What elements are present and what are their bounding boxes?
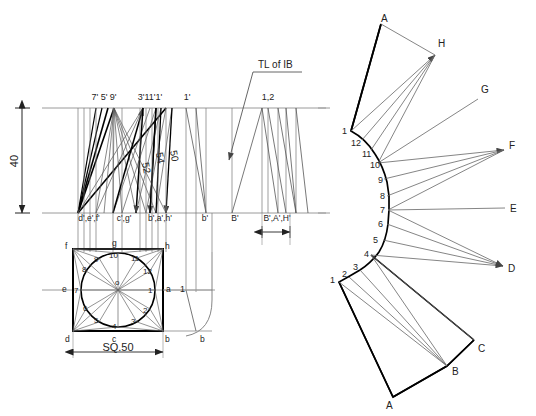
label-e: e (62, 284, 67, 294)
label-b-outer: b (200, 334, 205, 344)
rays-to-H (351, 24, 435, 163)
dev-label-A-top: A (381, 13, 388, 24)
height-dimension-label: 40 (8, 155, 20, 167)
development-reference-ticks (318, 108, 326, 213)
dev-label-H: H (438, 38, 445, 49)
tl-of-ib-label: TL of IB (258, 59, 293, 70)
dev-number-6: 6 (378, 219, 383, 229)
label-h: h (165, 241, 170, 251)
dev-number-1-top: 1 (342, 126, 347, 136)
division-6: 6 (83, 304, 88, 313)
dev-number-9: 9 (378, 175, 383, 185)
front-view-outline (78, 108, 308, 292)
dev-number-1-bot: 1 (330, 275, 335, 285)
engineering-drawing-canvas: 40 (0, 0, 536, 416)
division-1: 1 (148, 286, 153, 295)
tl-of-ib-annotation: TL of IB (229, 59, 302, 160)
rays-to-F (378, 150, 504, 210)
dev-number-3: 3 (353, 262, 358, 272)
ray-to-E (388, 208, 505, 210)
bottom-label-Bprime: B' (231, 213, 239, 223)
label-o-center: o (115, 278, 120, 287)
bottom-label-def: d',e',f' (78, 213, 100, 223)
ray-to-G (378, 99, 478, 163)
front-view-bottom-labels: d',e',f' c',g' b',a',h' b' B' B',A',H' (78, 213, 291, 223)
division-3: 3 (131, 317, 136, 326)
top-view-group: SQ.50 f g h e a d c b b 1 o 1 2 3 (42, 213, 215, 358)
dev-number-2: 2 (342, 269, 347, 279)
dev-number-4: 4 (364, 249, 369, 259)
division-4: 4 (112, 322, 117, 331)
dev-label-B: B (452, 366, 459, 377)
rays-to-D (371, 210, 503, 266)
top-label-1-2: 1,2 (262, 92, 275, 102)
dev-number-12: 12 (351, 138, 361, 148)
top-label-1prime: 1' (184, 92, 191, 102)
top-view-right-projection (163, 213, 212, 336)
slant-label-50: 50 (168, 149, 181, 162)
slant-label-54: 54 (154, 151, 167, 164)
division-5: 5 (94, 316, 99, 325)
dev-label-C: C (478, 343, 485, 354)
square-dimension-label: SQ.50 (102, 341, 133, 353)
label-1-right: 1 (180, 284, 185, 294)
dev-label-G: G (481, 84, 489, 95)
bottom-label-bprime: b' (202, 213, 209, 223)
top-label-759: 7' 5' 9' (91, 92, 116, 102)
development-outline (339, 24, 474, 397)
development-letter-labels: A H G F E D C B A (381, 13, 517, 411)
development-number-labels: 1 12 11 10 9 8 7 6 5 4 3 2 1 (330, 126, 385, 285)
division-12: 12 (143, 267, 152, 276)
division-9: 9 (94, 255, 99, 264)
division-11: 11 (131, 254, 140, 263)
dev-number-5: 5 (373, 235, 378, 245)
development-group: A H G F E D C B A 1 12 11 10 9 8 7 6 5 4… (318, 13, 517, 411)
dev-label-D: D (508, 263, 515, 274)
division-7: 7 (74, 286, 79, 295)
slant-label-52: 52 (140, 161, 153, 174)
bottom-label-cg: c',g' (117, 213, 132, 223)
dev-label-A-bottom: A (386, 400, 393, 411)
dev-number-8: 8 (380, 191, 385, 201)
label-b-square: b (165, 334, 170, 344)
dev-label-E: E (510, 203, 517, 214)
division-2: 2 (143, 306, 148, 315)
dev-label-F: F (509, 140, 515, 151)
ray-to-C (371, 255, 474, 340)
square-dimension: SQ.50 (73, 341, 163, 353)
drawing-sheet: 40 (0, 0, 536, 416)
dev-number-11: 11 (362, 149, 371, 159)
front-view-group: 40 (8, 59, 330, 292)
height-dimension: 40 (8, 108, 30, 213)
dev-number-10: 10 (370, 160, 380, 170)
bottom-label-bah: b',a',h' (148, 213, 172, 223)
division-8: 8 (82, 265, 87, 274)
top-label-3111: 3'11'1' (138, 92, 163, 102)
label-d: d (65, 334, 70, 344)
label-f: f (65, 241, 68, 251)
dev-number-7: 7 (380, 205, 385, 215)
label-g: g (112, 238, 117, 248)
bottom-label-BAH: B',A',H' (263, 213, 290, 223)
division-10: 10 (109, 251, 118, 260)
label-a: a (166, 284, 171, 294)
